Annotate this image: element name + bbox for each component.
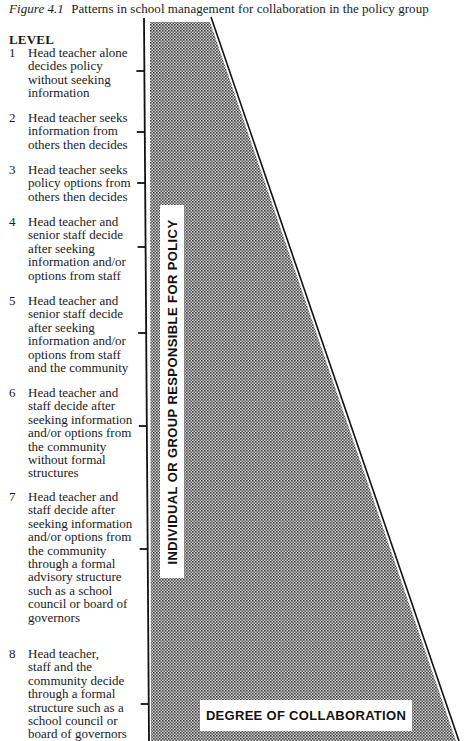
vertical-axis-line: [144, 18, 149, 741]
vertical-axis-label: INDIVIDUAL OR GROUP RESPONSIBLE FOR POLI…: [165, 219, 180, 564]
collaboration-diagram: [0, 0, 468, 741]
vertical-axis-label-box: INDIVIDUAL OR GROUP RESPONSIBLE FOR POLI…: [160, 205, 184, 578]
horizontal-axis-label-box: DEGREE OF COLLABORATION: [200, 700, 412, 731]
shaded-collaboration-area: [150, 22, 456, 741]
horizontal-axis-label: DEGREE OF COLLABORATION: [206, 708, 406, 723]
